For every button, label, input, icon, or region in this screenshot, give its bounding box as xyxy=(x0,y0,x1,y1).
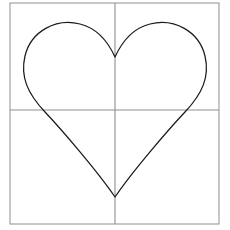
heart-curve-figure xyxy=(0,0,230,230)
figure-canvas xyxy=(0,0,230,230)
